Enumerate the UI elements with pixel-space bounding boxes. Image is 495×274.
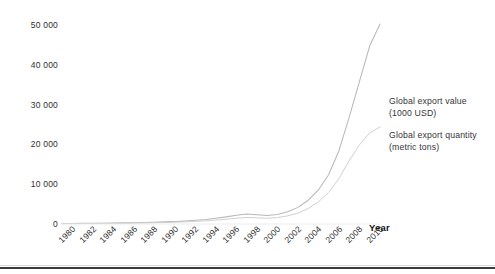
page-edge-rule [0, 267, 495, 269]
chart-legend: Global export value (1000 USD) Global ex… [389, 96, 493, 164]
x-tick-label: 1994 [201, 225, 221, 245]
series-line [62, 127, 380, 224]
y-axis: 010 00020 00030 00040 00050 000 [0, 0, 58, 274]
x-tick-label: 2006 [324, 225, 344, 245]
series-line [62, 24, 380, 224]
x-tick-label: 1992 [180, 225, 200, 245]
plot-area [62, 18, 380, 224]
y-tick-label: 20 000 [0, 140, 58, 149]
page-edge-soft [0, 265, 495, 266]
x-tick-label: 2000 [262, 225, 282, 245]
legend-label-line1: Global export value [389, 96, 493, 108]
y-tick-label: 10 000 [0, 180, 58, 189]
y-tick-label: 50 000 [0, 21, 58, 30]
legend-label-line2: (1000 USD) [389, 108, 493, 120]
x-tick-label: 1998 [242, 225, 262, 245]
legend-entry-export-quantity: Global export quantity (metric tons) [389, 130, 493, 153]
x-tick-label: 1988 [139, 225, 159, 245]
x-tick-label: 1986 [119, 225, 139, 245]
y-tick-label: 0 [0, 220, 58, 229]
x-tick-label: 1990 [160, 225, 180, 245]
x-tick-label: 1996 [221, 225, 241, 245]
x-tick-label: 2002 [283, 225, 303, 245]
x-tick-label: 2004 [303, 225, 323, 245]
legend-entry-export-value: Global export value (1000 USD) [389, 96, 493, 119]
y-tick-label: 30 000 [0, 101, 58, 110]
x-tick-label: 1982 [78, 225, 98, 245]
x-tick-label: 1980 [57, 225, 77, 245]
x-axis-title: Year [369, 222, 390, 233]
x-tick-label: 2008 [344, 225, 364, 245]
plot-svg [62, 18, 380, 224]
x-tick-label: 1984 [98, 225, 118, 245]
y-tick-label: 40 000 [0, 61, 58, 70]
chart-figure: 010 00020 00030 00040 00050 000 19801982… [0, 0, 495, 274]
legend-label-line2: (metric tons) [389, 142, 493, 154]
legend-label-line1: Global export quantity [389, 130, 493, 142]
